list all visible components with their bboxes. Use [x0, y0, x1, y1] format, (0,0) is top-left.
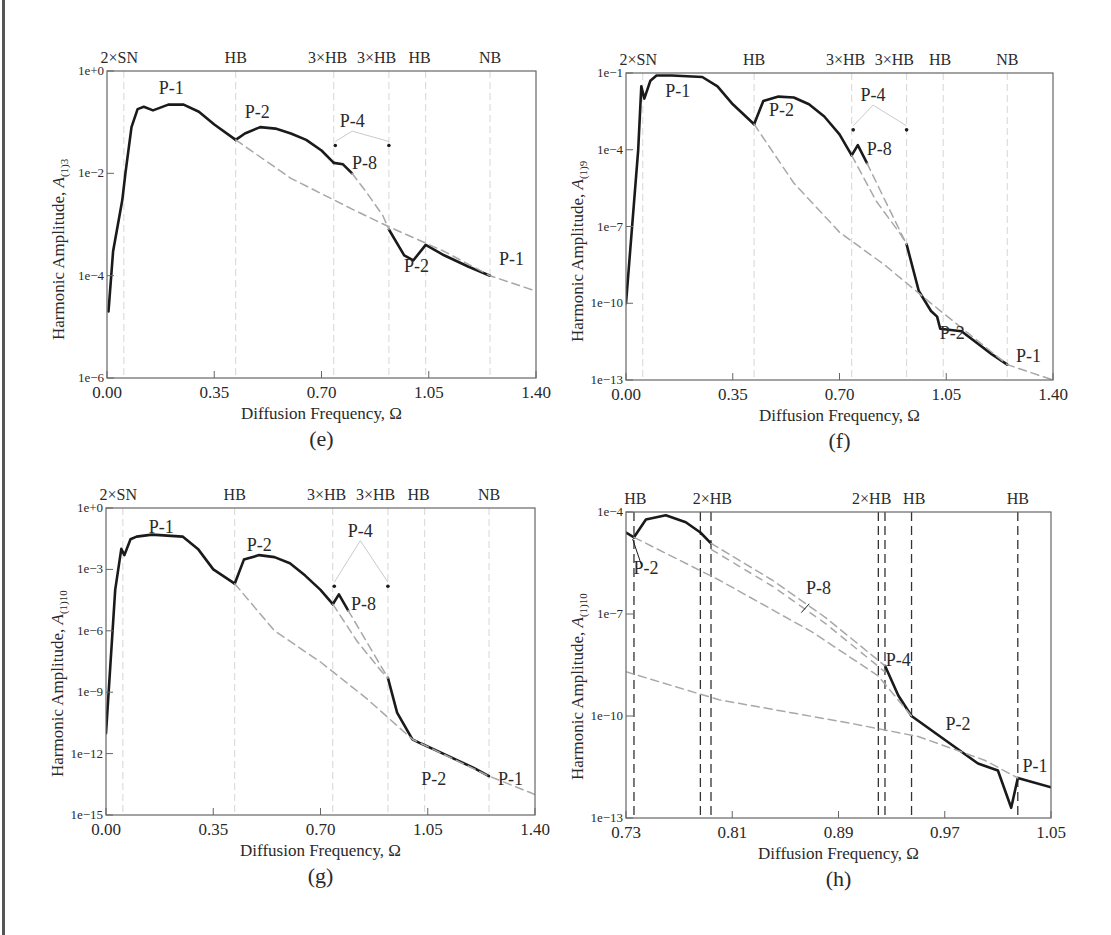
y-tick-label: 1e−4	[597, 142, 624, 157]
dashed-curve	[333, 604, 388, 678]
x-tick-label: 0.73	[611, 823, 641, 842]
x-tick-label: 1.05	[413, 820, 443, 839]
curve-label: P-1	[1023, 756, 1048, 776]
bifurcation-label: HB	[408, 49, 430, 66]
marker-dot	[386, 584, 390, 588]
bifurcation-label: NB	[479, 49, 501, 66]
plot-frame	[626, 73, 1053, 380]
x-tick-label: 0.89	[824, 823, 854, 842]
x-axis-label: Diffusion Frequency, Ω	[211, 841, 431, 861]
bifurcation-label: HB	[624, 490, 646, 507]
y-axis-label: Harmonic Amplitude, A(1)10	[48, 590, 69, 777]
x-tick-label: 0.35	[198, 820, 228, 839]
curve-label: P-1	[159, 78, 184, 98]
dashed-curve	[711, 549, 885, 672]
x-tick-label: 0.70	[306, 820, 336, 839]
y-tick-label: 1e−9	[77, 684, 103, 699]
panel-caption: (e)	[292, 426, 352, 452]
curve-label: P-2	[247, 535, 272, 555]
y-axis-label: Harmonic Amplitude, A(1)3	[49, 158, 70, 339]
y-axis-subscript: (1)10	[57, 590, 69, 614]
bifurcation-label: HB	[407, 486, 429, 503]
curve-label: P-1	[1016, 346, 1041, 366]
bifurcation-label: 3×HB	[875, 51, 914, 68]
curve-label: P-1	[499, 249, 524, 269]
solid-curve	[334, 163, 352, 173]
curve-label: P-2	[404, 256, 429, 276]
bifurcation-label: 3×HB	[826, 51, 865, 68]
y-tick-label: 1e−7	[597, 219, 624, 234]
solid-curve	[885, 666, 912, 716]
solid-curve	[236, 127, 334, 163]
marker-dot	[332, 584, 336, 588]
x-tick-label: 1.40	[1038, 385, 1068, 404]
x-tick-label: 0.97	[930, 823, 960, 842]
series-group	[626, 515, 1051, 808]
chart-svg: 1e−11e−41e−71e−101e−130.000.350.701.051.…	[555, 0, 1111, 460]
bifurcation-label: 3×HB	[307, 486, 346, 503]
x-tick-label: 0.00	[92, 383, 122, 402]
bifurcation-label: HB	[929, 51, 951, 68]
x-tick-label: 1.05	[931, 385, 961, 404]
solid-curve	[626, 533, 634, 538]
dashed-curve	[867, 163, 907, 244]
y-tick-label: 1e−6	[77, 623, 104, 638]
y-tick-label: 1e−2	[78, 165, 104, 180]
bifurcation-label: 2×SN	[619, 51, 657, 68]
y-axis-symbol: A	[568, 179, 587, 189]
y-axis-subscript: (1)3	[58, 158, 70, 176]
marker-dot	[905, 128, 909, 132]
y-tick-label: 1e−4	[597, 504, 624, 519]
bifurcation-label: HB	[1007, 490, 1029, 507]
x-tick-label: 1.05	[1036, 823, 1066, 842]
dashed-curve	[711, 543, 885, 666]
curve-label: P-4	[340, 111, 365, 131]
y-axis-symbol: A	[48, 614, 67, 624]
x-tick-label: 0.35	[199, 383, 229, 402]
curve-label: P-1	[149, 517, 174, 537]
x-tick-label: 1.40	[520, 820, 550, 839]
y-axis-label-text: Harmonic Amplitude,	[49, 187, 68, 340]
curve-label: P-4	[886, 650, 911, 670]
bifurcation-lines	[124, 71, 490, 378]
x-tick-label: 0.00	[611, 385, 641, 404]
chart-panel-e: 1e+01e−21e−41e−60.000.350.701.051.402×SN…	[0, 0, 560, 460]
y-axis-label: Harmonic Amplitude, A(1)9	[568, 160, 589, 341]
y-axis-label-text: Harmonic Amplitude,	[48, 624, 67, 777]
marker-dot	[387, 144, 391, 148]
dashed-curve	[852, 155, 907, 244]
y-axis-subscript: (1)10	[577, 593, 589, 617]
solid-curve	[907, 244, 1008, 364]
bifurcation-label: 2×SN	[100, 486, 138, 503]
bifurcation-label: 3×HB	[357, 49, 396, 66]
marker-dot	[333, 144, 337, 148]
x-axis-label: Diffusion Frequency, Ω	[730, 406, 950, 426]
bifurcation-label: HB	[224, 486, 246, 503]
x-tick-label: 0.35	[718, 385, 748, 404]
solid-curve	[106, 535, 235, 734]
bifurcation-label: 3×HB	[356, 486, 395, 503]
series-group	[626, 76, 1053, 381]
y-axis-symbol: A	[49, 177, 68, 187]
curve-label: P-4	[348, 521, 373, 541]
curve-label: P-1	[665, 81, 690, 101]
y-axis-symbol: A	[568, 617, 587, 627]
y-axis-label-text: Harmonic Amplitude,	[568, 189, 587, 342]
bifurcation-lines	[634, 512, 1018, 818]
dashed-curve	[634, 537, 912, 716]
x-tick-label: 1.05	[414, 383, 444, 402]
panel-caption: (f)	[810, 428, 870, 454]
chart-panel-f: 1e−11e−41e−71e−101e−130.000.350.701.051.…	[555, 0, 1111, 460]
x-axis-label: Diffusion Frequency, Ω	[212, 404, 432, 424]
x-tick-label: 0.81	[717, 823, 747, 842]
panel-caption: (g)	[291, 863, 351, 889]
dashed-curve	[236, 140, 536, 291]
y-tick-label: 1e−3	[77, 561, 103, 576]
series-group	[106, 535, 535, 795]
curve-label: P-2	[946, 714, 971, 734]
bifurcation-label: 3×HB	[308, 49, 347, 66]
chart-panel-g: 1e+01e−31e−61e−91e−121e−150.000.350.701.…	[0, 460, 560, 935]
solid-curve	[235, 555, 333, 604]
series-group	[109, 105, 537, 312]
marker-dot	[851, 128, 855, 132]
